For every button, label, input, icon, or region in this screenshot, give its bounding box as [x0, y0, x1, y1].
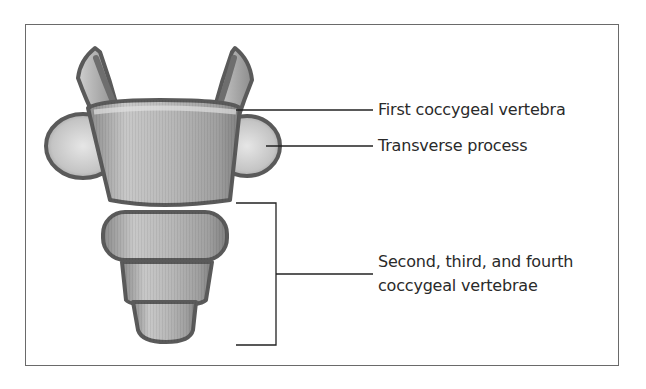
third-coccygeal-vertebra-shape — [122, 262, 212, 306]
bracket-lower-vertebrae — [236, 203, 276, 345]
first-coccygeal-vertebra-shape — [88, 100, 240, 205]
fourth-coccygeal-vertebra-shape — [133, 302, 196, 342]
label-first-coccygeal-vertebra: First coccygeal vertebra — [378, 98, 566, 122]
second-coccygeal-vertebra-shape — [103, 212, 227, 260]
coccyx-illustration — [0, 0, 646, 389]
label-lower-vertebrae-line2: coccygeal vertebrae — [378, 274, 538, 298]
label-lower-vertebrae-line1: Second, third, and fourth — [378, 250, 573, 274]
label-transverse-process: Transverse process — [378, 134, 527, 158]
